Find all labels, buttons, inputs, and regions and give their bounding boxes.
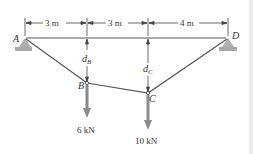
sag-label-c: dC: [143, 63, 153, 76]
label-d: D: [231, 30, 240, 41]
load-label-b: 6 kN: [77, 125, 95, 135]
cable-diagram: 3 m 3 m 4 m dB dC A B C D 6 kN 10 kN: [0, 0, 253, 154]
point-b: [85, 81, 88, 84]
label-c: C: [149, 93, 156, 104]
load-arrow-b: [83, 85, 91, 118]
label-b: B: [78, 80, 84, 91]
dim-label-ab: 3 m: [45, 18, 59, 28]
cable: [26, 39, 227, 93]
dim-label-bc: 3 m: [108, 18, 122, 28]
sag-label-b: dB: [82, 53, 92, 66]
load-label-c: 10 kN: [135, 136, 158, 146]
dim-label-cd: 4 m: [180, 18, 194, 28]
label-a: A: [12, 33, 20, 44]
